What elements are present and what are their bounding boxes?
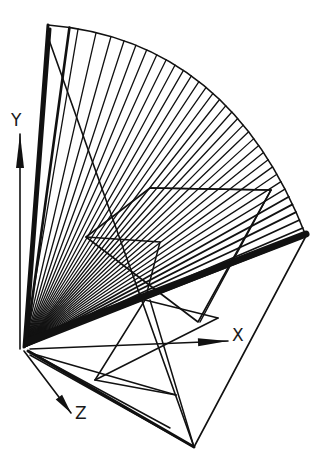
diagram-canvas: X Y Z	[0, 0, 331, 468]
inner-line	[95, 380, 176, 395]
z-axis	[24, 351, 71, 413]
fan-rays	[24, 25, 306, 347]
y-arrow-icon	[16, 134, 24, 168]
wireframe-figure	[0, 0, 331, 468]
z-axis-label: Z	[75, 405, 87, 422]
inner-line	[150, 188, 271, 190]
y-axis	[16, 134, 24, 349]
x-axis	[30, 338, 228, 349]
fan-ray	[24, 112, 232, 347]
outer-arc	[48, 25, 306, 236]
inner-line	[200, 190, 271, 322]
inner-line	[30, 355, 194, 447]
y-axis-label: Y	[11, 112, 21, 129]
fan-ray	[24, 125, 243, 347]
x-arrow-icon	[198, 338, 228, 346]
x-axis-label: X	[232, 327, 244, 344]
z-arrow-icon	[56, 395, 71, 413]
fan-ray	[24, 182, 281, 347]
fan-ray	[24, 146, 259, 347]
inner-line	[95, 318, 218, 380]
